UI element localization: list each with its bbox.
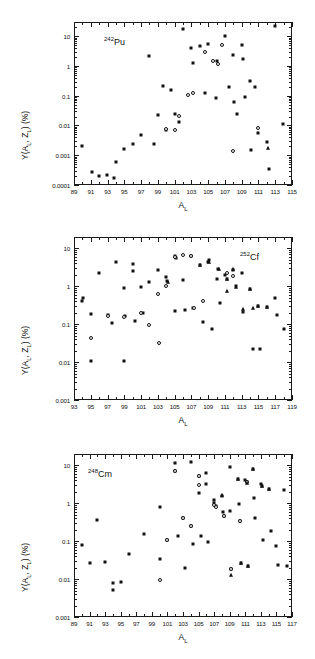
x-axis-tick-top xyxy=(250,22,251,25)
x-axis-tick xyxy=(233,397,234,400)
data-point-triangle xyxy=(246,564,250,568)
x-axis-tick-top xyxy=(292,22,293,27)
y-axis-tick-label: 10 xyxy=(32,245,70,252)
data-point-square xyxy=(165,276,168,279)
data-point-square xyxy=(257,132,260,135)
y-axis-minor-tick-right xyxy=(289,344,292,345)
x-axis-tick-top xyxy=(158,22,159,27)
y-axis-tick-right xyxy=(287,155,292,156)
data-point-square xyxy=(233,100,236,103)
y-axis-tick-right xyxy=(287,362,292,363)
x-axis-tick xyxy=(129,614,130,617)
x-axis-tick xyxy=(133,182,134,185)
y-axis-minor-tick-right xyxy=(289,606,292,607)
x-axis-tick-label: 95 xyxy=(121,188,127,195)
y-axis-tick xyxy=(74,541,79,542)
y-axis-minor-tick-right xyxy=(289,568,292,569)
y-axis-minor-tick xyxy=(74,108,77,109)
x-axis-tick-label: 115 xyxy=(254,403,263,410)
y-axis-minor-tick-right xyxy=(289,263,292,264)
x-axis-tick-top xyxy=(136,454,137,459)
x-axis-tick-label: 97 xyxy=(104,403,110,410)
data-point-circle xyxy=(191,91,195,95)
x-axis-tick-top xyxy=(141,22,142,27)
y-axis-minor-tick-right xyxy=(289,162,292,163)
x-axis-tick-top xyxy=(97,454,98,457)
data-point-square xyxy=(207,42,210,45)
y-axis-minor-tick-right xyxy=(289,288,292,289)
x-axis-tick-label: 107 xyxy=(209,620,219,627)
y-axis-minor-tick xyxy=(74,127,77,128)
x-axis-tick-label: 91 xyxy=(86,620,92,627)
y-axis-minor-tick-right xyxy=(289,336,292,337)
data-point-square xyxy=(240,272,243,275)
x-axis-tick xyxy=(152,612,153,617)
y-axis-minor-tick xyxy=(74,100,77,101)
x-axis-tick-label: 103 xyxy=(153,403,163,410)
y-axis-minor-tick xyxy=(74,344,77,345)
x-axis-tick-label: 95 xyxy=(88,403,94,410)
x-axis-tick-top xyxy=(166,22,167,25)
data-point-square xyxy=(140,134,143,137)
data-point-circle xyxy=(89,336,93,340)
y-axis-minor-tick-right xyxy=(289,581,292,582)
y-axis-minor-tick xyxy=(74,237,77,238)
y-axis-tick-right xyxy=(287,617,292,618)
y-axis-tick-label: 0.1 xyxy=(32,92,70,99)
x-axis-tick xyxy=(90,612,91,617)
data-point-triangle xyxy=(239,561,243,565)
y-axis-minor-tick xyxy=(74,328,77,329)
y-axis-minor-tick xyxy=(74,306,77,307)
x-axis-tick xyxy=(292,395,293,400)
y-axis-tick xyxy=(74,579,79,580)
y-axis-minor-tick xyxy=(74,130,77,131)
x-axis-tick-label: 95 xyxy=(117,620,123,627)
x-axis-tick xyxy=(82,614,83,617)
data-point-square xyxy=(170,89,173,92)
y-axis-minor-tick xyxy=(74,252,77,253)
y-axis-minor-tick xyxy=(74,78,77,79)
data-point-square xyxy=(174,462,177,465)
x-axis-tick xyxy=(116,397,117,400)
y-axis-minor-tick xyxy=(74,599,77,600)
y-axis-minor-tick-right xyxy=(289,374,292,375)
y-axis-minor-tick xyxy=(74,57,77,58)
x-axis-tick xyxy=(183,612,184,617)
y-axis-tick-right xyxy=(287,286,292,287)
data-point-square xyxy=(123,148,126,151)
data-point-square xyxy=(242,310,245,313)
y-axis-minor-tick xyxy=(74,553,77,554)
x-axis-tick-label: 91 xyxy=(88,188,94,195)
chart-panel-242pu: 242Pu AL Y(AL, ZL) (%) 89919395979910110… xyxy=(0,0,315,215)
data-point-square xyxy=(174,310,177,313)
y-axis-minor-tick xyxy=(74,326,77,327)
x-axis-tick xyxy=(222,614,223,617)
x-axis-tick-top xyxy=(191,454,192,457)
y-axis-minor-tick xyxy=(74,507,77,508)
y-axis-minor-tick xyxy=(74,45,77,46)
x-axis-tick-top xyxy=(233,237,234,240)
x-axis-tick-label: 109 xyxy=(225,620,235,627)
y-axis-tick-right xyxy=(287,465,292,466)
x-axis-tick-top xyxy=(258,237,259,242)
x-axis-tick-label: 89 xyxy=(71,620,77,627)
y-axis-minor-tick xyxy=(74,467,77,468)
y-axis-minor-tick xyxy=(74,485,77,486)
y-axis-minor-tick xyxy=(74,22,77,23)
y-axis-minor-tick xyxy=(74,377,77,378)
y-axis-minor-tick-right xyxy=(289,52,292,53)
y-axis-minor-tick-right xyxy=(289,485,292,486)
x-axis-tick-label: 107 xyxy=(220,188,230,195)
x-axis-tick xyxy=(121,612,122,617)
y-axis-minor-tick-right xyxy=(289,477,292,478)
data-point-triangle xyxy=(266,145,270,149)
y-axis-minor-tick xyxy=(74,111,77,112)
y-axis-tick xyxy=(74,617,79,618)
chart-panel-252cf: 252Cf AL Y(AL, ZL) (%) 93959799101103105… xyxy=(0,215,315,430)
y-axis-minor-tick-right xyxy=(289,561,292,562)
x-axis-tick-top xyxy=(99,237,100,240)
data-point-square xyxy=(283,488,286,491)
y-axis-minor-tick xyxy=(74,588,77,589)
x-axis-tick xyxy=(166,397,167,400)
x-axis-tick-top xyxy=(91,237,92,242)
